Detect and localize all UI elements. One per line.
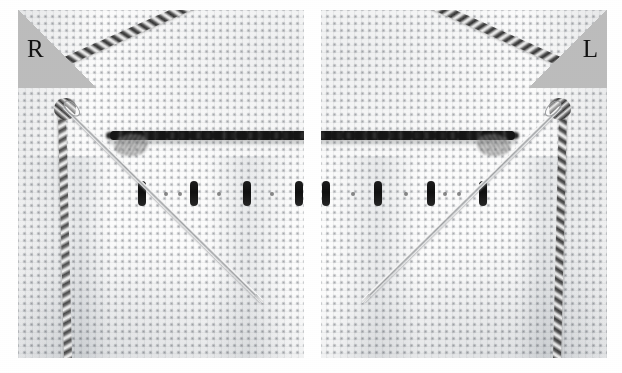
corner-badge-right: R	[18, 10, 96, 88]
stitch-diagram-figure: R L	[0, 0, 622, 373]
stitch-dot	[351, 192, 355, 196]
corner-badge-left: L	[529, 10, 607, 88]
thread-tail	[477, 134, 511, 156]
badge-label-right: R	[27, 36, 44, 61]
stitch-dash	[190, 181, 198, 206]
stitch-dot	[457, 192, 461, 196]
stitch-dash	[243, 181, 251, 206]
stitch-dot	[164, 192, 168, 196]
panel-left: L	[321, 10, 607, 358]
stitch-dot	[404, 192, 408, 196]
panel-right: R	[18, 10, 304, 358]
stitch-dash	[427, 181, 435, 206]
stitch-dash	[322, 181, 330, 206]
stitch-dot	[217, 192, 221, 196]
badge-label-left: L	[583, 36, 598, 61]
thread-tail	[114, 134, 148, 156]
stitch-dot	[443, 192, 447, 196]
stitch-dot	[178, 192, 182, 196]
stitch-dash	[374, 181, 382, 206]
stitch-dash	[295, 181, 303, 206]
stitch-dot	[270, 192, 274, 196]
